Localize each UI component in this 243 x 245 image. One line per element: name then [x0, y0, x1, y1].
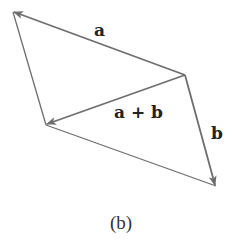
label-b: b [211, 123, 223, 143]
bottom-edge [46, 125, 216, 186]
label-a-plus-b: a + b [114, 102, 163, 122]
left-edge [13, 12, 46, 125]
vector-diagram: a a + b b (b) [0, 0, 243, 245]
figure-caption: (b) [110, 212, 132, 234]
label-a: a [94, 20, 105, 40]
